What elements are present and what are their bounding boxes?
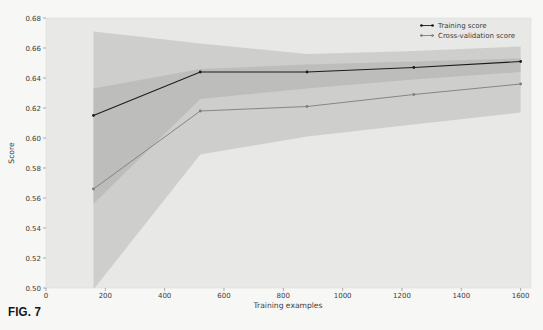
- data-point: [92, 114, 95, 117]
- y-tick-label: 0.52: [25, 255, 41, 263]
- y-tick-label: 0.54: [25, 225, 41, 233]
- data-point: [306, 71, 309, 74]
- x-tick-label: 0: [44, 292, 48, 300]
- data-point: [519, 83, 522, 86]
- data-point: [412, 66, 415, 69]
- data-point: [199, 71, 202, 74]
- y-tick-label: 0.68: [25, 15, 41, 23]
- learning-curve-chart: 0.500.520.540.560.580.600.620.640.660.68…: [0, 0, 543, 330]
- y-tick-label: 0.62: [25, 105, 41, 113]
- data-point: [92, 188, 95, 191]
- x-tick-label: 1000: [334, 292, 352, 300]
- x-tick-label: 600: [217, 292, 230, 300]
- y-tick-label: 0.66: [25, 45, 41, 53]
- x-tick-label: 200: [99, 292, 112, 300]
- data-point: [306, 105, 309, 108]
- x-axis-label: Training examples: [252, 301, 322, 310]
- x-tick-label: 800: [277, 292, 290, 300]
- data-point: [199, 110, 202, 113]
- data-point: [412, 93, 415, 96]
- y-tick-label: 0.60: [25, 135, 41, 143]
- y-tick-label: 0.56: [25, 195, 41, 203]
- legend-label-cross-validation-score: Cross-validation score: [438, 32, 515, 40]
- x-tick-label: 1600: [512, 292, 530, 300]
- x-tick-label: 400: [158, 292, 171, 300]
- x-tick-label: 1200: [393, 292, 411, 300]
- y-tick-label: 0.58: [25, 165, 41, 173]
- figure-caption: FIG. 7: [8, 305, 41, 319]
- y-tick-label: 0.50: [25, 285, 41, 293]
- y-tick-label: 0.64: [25, 75, 41, 83]
- x-tick-label: 1400: [452, 292, 470, 300]
- legend-label-training-score: Training score: [437, 22, 487, 30]
- data-point: [519, 60, 522, 63]
- y-axis-label: Score: [7, 142, 16, 164]
